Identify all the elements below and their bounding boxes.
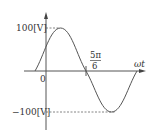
tick-denominator: 6 — [92, 61, 97, 71]
waveform-diagram: 100[V] −100[V] 0 5π 6 ωt — [0, 0, 153, 136]
min-label: −100[V] — [12, 107, 50, 117]
max-label: 100[V] — [16, 23, 47, 33]
tick-numerator: 5π — [90, 50, 101, 60]
x-axis-arrow-icon — [139, 69, 146, 73]
origin-label: 0 — [40, 74, 46, 84]
y-axis-arrow-icon — [44, 12, 48, 19]
x-axis-label: ωt — [134, 59, 145, 69]
